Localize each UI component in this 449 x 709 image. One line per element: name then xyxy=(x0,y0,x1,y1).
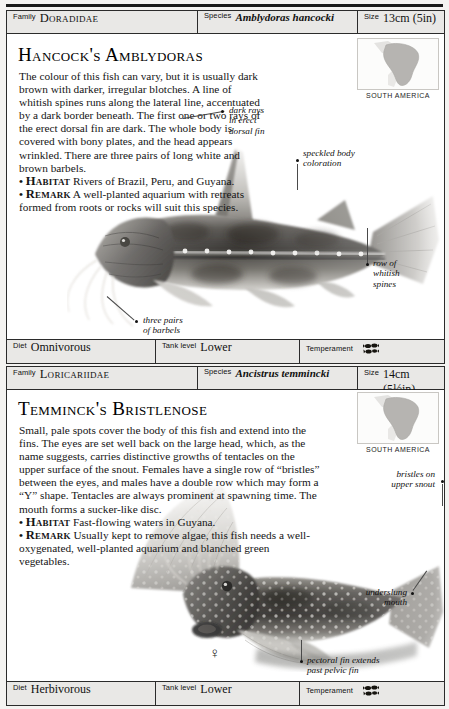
callout-dot-bristles-upper-snout xyxy=(441,480,444,483)
header-size-cell: Size 14cm (5½in) xyxy=(357,367,444,389)
footer-diet-cell: Diet Omnivorous xyxy=(7,340,155,363)
callout-dot-speckled-body xyxy=(296,159,299,162)
callout-pectoral-fin: pectoral fin extendspast pelvic fin xyxy=(307,655,379,676)
callout-speckled-body: speckled bodycoloration xyxy=(303,148,355,169)
entry-footer: Diet Herbivorous Tank level Lower Temper… xyxy=(7,681,444,705)
family-value: Doradidae xyxy=(40,11,99,26)
description-paragraph: Small, pale spots cover the body of this… xyxy=(19,424,321,516)
habitat-text: Fast-flowing waters in Guyana. xyxy=(73,516,215,528)
callout-bristles-upper-snout: bristles onupper snout xyxy=(307,469,435,490)
callout-dot-whitish-spines xyxy=(366,263,369,266)
map-caption: SOUTH AMERICA xyxy=(357,92,439,99)
species-value: Ancistrus temmincki xyxy=(235,367,329,379)
habitat-keyword: Habitat xyxy=(26,515,70,529)
diet-value: Omnivorous xyxy=(31,340,91,355)
diet-value: Herbivorous xyxy=(31,682,91,697)
callout-dark-rays: dark raysin erectdorsal fin xyxy=(229,105,264,136)
page-top-rule xyxy=(6,4,443,7)
female-symbol: ♀ xyxy=(209,645,220,662)
leader-line-pectoral-fin xyxy=(301,640,302,660)
size-value: 13cm (5in) xyxy=(383,11,436,26)
peaceful-shoal-icon xyxy=(363,341,379,359)
page-title: Hancock's Amblydoras xyxy=(18,44,203,66)
header-size-cell: Size 13cm (5in) xyxy=(357,11,444,33)
family-label: Family xyxy=(13,12,36,21)
diet-label: Diet xyxy=(13,341,27,350)
page-title: Temminck's Bristlenose xyxy=(18,398,207,420)
peaceful-shoal-icon xyxy=(363,683,379,701)
species-label: Species xyxy=(204,11,231,20)
description-block: Small, pale spots cover the body of this… xyxy=(19,424,321,568)
map-frame xyxy=(357,38,439,90)
habitat-text: Rivers of Brazil, Peru, and Guyana. xyxy=(73,175,234,187)
entry-body: Temminck's Bristlenose Small, pale spots… xyxy=(7,390,444,706)
temperament-label: Temperament xyxy=(306,686,353,695)
entry-footer: Diet Omnivorous Tank level Lower Tempera… xyxy=(7,339,444,363)
callout-whitish-spines: row ofwhitishspines xyxy=(373,258,400,289)
size-label: Size xyxy=(364,368,379,377)
species-entry-hancocks-amblydoras: Family Doradidae Species Amblydoras hanc… xyxy=(6,10,445,364)
header-species-cell: Species Amblydoras hancocki xyxy=(197,11,357,33)
footer-temperament-cell: Temperament xyxy=(299,340,444,363)
family-value: Loricariidae xyxy=(40,367,110,382)
remark-keyword: Remark xyxy=(26,187,71,201)
callout-three-pairs-barbels: three pairsof barbels xyxy=(143,315,183,336)
tank-level-value: Lower xyxy=(200,340,231,355)
description-block: The colour of this fish can vary, but it… xyxy=(19,70,267,214)
size-label: Size xyxy=(364,12,379,21)
tank-level-value: Lower xyxy=(200,682,231,697)
species-label: Species xyxy=(204,367,231,376)
leader-line-whitish-spines xyxy=(367,228,368,264)
map-caption: SOUTH AMERICA xyxy=(357,446,439,453)
callout-underslung-mouth: underslungmouth xyxy=(287,587,407,608)
tank-level-label: Tank level xyxy=(162,683,196,692)
diet-label: Diet xyxy=(13,683,27,692)
callout-dot-pectoral-fin xyxy=(300,660,303,663)
remark-paragraph: • Remark A well-planted aquarium with re… xyxy=(19,188,267,214)
header-family-cell: Family Doradidae xyxy=(7,11,197,33)
distribution-map: SOUTH AMERICA xyxy=(357,38,439,99)
header-species-cell: Species Ancistrus temmincki xyxy=(197,367,357,389)
family-label: Family xyxy=(13,368,36,377)
species-entry-temmincks-bristlenose: Family Loricariidae Species Ancistrus te… xyxy=(6,366,445,706)
footer-temperament-cell: Temperament xyxy=(299,682,444,705)
field-guide-page: Family Doradidae Species Amblydoras hanc… xyxy=(0,0,449,709)
entry-header: Family Loricariidae Species Ancistrus te… xyxy=(7,367,444,390)
habitat-keyword: Habitat xyxy=(26,174,70,188)
distribution-map: SOUTH AMERICA xyxy=(357,392,439,453)
temperament-label: Temperament xyxy=(306,344,353,353)
footer-tank-level-cell: Tank level Lower xyxy=(155,682,299,705)
header-family-cell: Family Loricariidae xyxy=(7,367,197,389)
remark-paragraph: • Remark Usually kept to remove algae, t… xyxy=(19,529,321,568)
footer-tank-level-cell: Tank level Lower xyxy=(155,340,299,363)
entry-body: Hancock's Amblydoras The colour of this … xyxy=(7,34,444,364)
remark-keyword: Remark xyxy=(26,528,71,542)
map-frame xyxy=(357,392,439,444)
leader-line-bristles-upper-snout xyxy=(442,484,443,506)
footer-diet-cell: Diet Herbivorous xyxy=(7,682,155,705)
leader-line-speckled-body xyxy=(297,164,298,190)
entry-header: Family Doradidae Species Amblydoras hanc… xyxy=(7,11,444,34)
species-value: Amblydoras hancocki xyxy=(235,11,334,23)
tank-level-label: Tank level xyxy=(162,341,196,350)
